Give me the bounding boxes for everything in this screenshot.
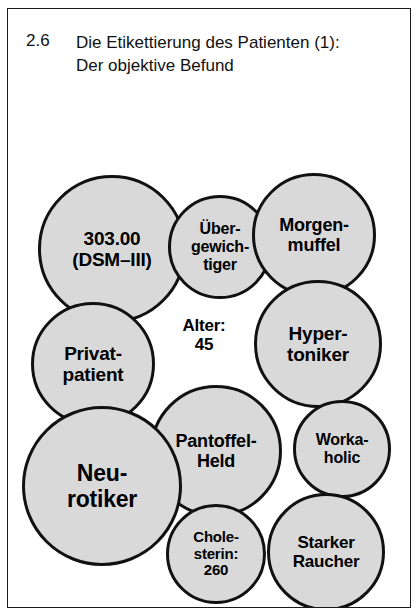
venn-circle-label: Hyper- toniker — [284, 323, 352, 366]
venn-circle-morgenmuffel: Morgen- muffel — [252, 173, 376, 297]
venn-circle-label: 303.00 (DSM–III) — [69, 228, 154, 271]
venn-circle-label: Neu- rotiker — [64, 460, 140, 512]
venn-circle-starkerraucher: Starker Raucher — [267, 493, 385, 608]
venn-circle-label: Morgen- muffel — [276, 215, 352, 256]
venn-circle-workaholic: Worka- holic — [293, 400, 391, 498]
venn-circle-dsm: 303.00 (DSM–III) — [38, 175, 186, 323]
venn-circle-cholesterin: Chole- sterin: 260 — [166, 504, 266, 604]
venn-circle-label: Chole- sterin: 260 — [190, 529, 241, 580]
venn-circle-label: Pantoffel- Held — [173, 431, 260, 472]
venn-circle-label: Worka- holic — [313, 431, 372, 467]
venn-circle-label: Über- gewich- tiger — [188, 220, 252, 274]
venn-circle-hypertoniker: Hyper- toniker — [254, 280, 382, 408]
venn-circle-alter: Alter: 45 — [164, 295, 244, 375]
venn-circle-label: Alter: 45 — [179, 316, 228, 354]
venn-circle-neurotiker: Neu- rotiker — [22, 406, 182, 566]
venn-circle-label: Starker Raucher — [290, 533, 363, 571]
slide-frame: 2.6 Die Etikettierung des Patienten (1):… — [7, 8, 411, 608]
venn-circle-label: Privat- patient — [60, 343, 127, 386]
venn-diagram: 303.00 (DSM–III)Über- gewich- tigerMorge… — [8, 9, 411, 608]
